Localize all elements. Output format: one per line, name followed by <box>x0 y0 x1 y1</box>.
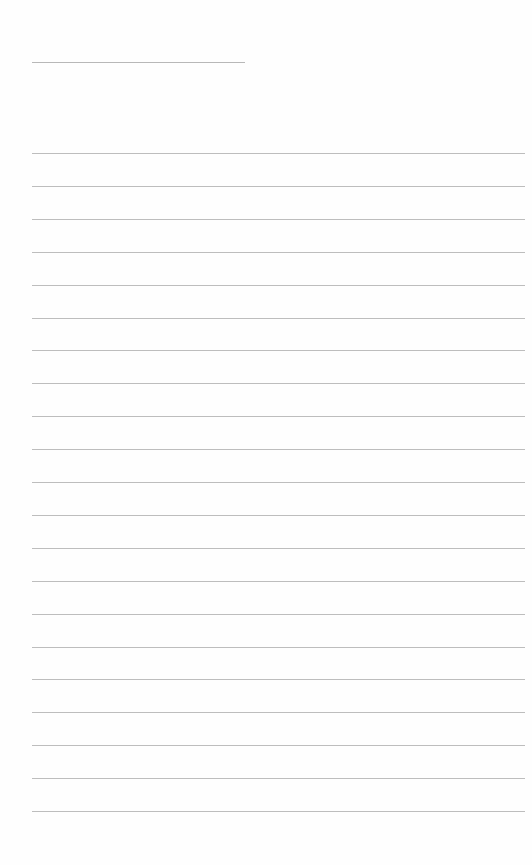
ruled-line <box>32 581 525 582</box>
ruled-line <box>32 811 525 812</box>
ruled-line <box>32 318 525 319</box>
ruled-line <box>32 285 525 286</box>
ruled-line <box>32 679 525 680</box>
ruled-line <box>32 383 525 384</box>
ruled-line <box>32 778 525 779</box>
ruled-line <box>32 614 525 615</box>
ruled-line <box>32 548 525 549</box>
ruled-line <box>32 153 525 154</box>
ruled-line <box>32 252 525 253</box>
ruled-line <box>32 647 525 648</box>
ruled-line <box>32 482 525 483</box>
ruled-line <box>32 186 525 187</box>
title-line <box>32 62 245 63</box>
ruled-line <box>32 712 525 713</box>
ruled-line <box>32 350 525 351</box>
ruled-line <box>32 416 525 417</box>
lined-paper-page <box>0 0 532 865</box>
ruled-line <box>32 449 525 450</box>
ruled-line <box>32 219 525 220</box>
ruled-line <box>32 515 525 516</box>
ruled-line <box>32 745 525 746</box>
